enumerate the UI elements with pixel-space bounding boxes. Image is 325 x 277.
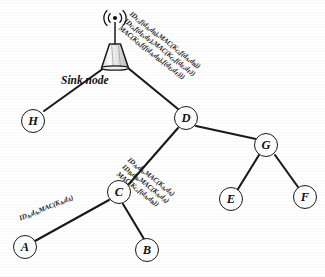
node-B-label: B [143, 243, 151, 256]
edge-c-b [123, 204, 144, 239]
node-A-label: A [21, 240, 29, 253]
node-E[interactable]: E [219, 187, 243, 211]
edge-g-f [275, 155, 298, 187]
sink-node-label: Sink node [61, 74, 109, 86]
node-C-label: C [115, 185, 123, 198]
node-D-label: D [181, 111, 190, 124]
node-H[interactable]: H [21, 109, 45, 133]
node-A[interactable]: A [13, 235, 37, 259]
node-H-label: H [28, 114, 38, 127]
node-G-label: G [261, 138, 270, 151]
node-E-label: E [227, 192, 235, 205]
node-D[interactable]: D [174, 106, 198, 130]
node-F[interactable]: F [293, 185, 317, 209]
edge-d-g [196, 126, 256, 139]
node-G[interactable]: G [254, 133, 278, 157]
edge-g-e [238, 155, 259, 189]
node-B[interactable]: B [135, 238, 159, 262]
node-F-label: F [301, 190, 309, 203]
